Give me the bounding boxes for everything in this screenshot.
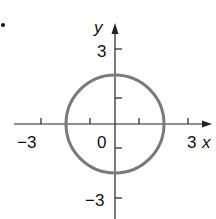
y-tick-label-neg3: −3 [85, 191, 104, 210]
x-tick-label-neg3: −3 [17, 133, 36, 152]
y-tick-label-3: 3 [97, 42, 106, 61]
y-axis [112, 23, 123, 219]
x-axis [14, 118, 212, 128]
x-tick-label-3: 3 [187, 133, 196, 152]
x-axis-arrow-icon [202, 121, 212, 128]
y-axis-arrow-icon [112, 23, 119, 34]
circle-graph: y 3 −3 0 3 x −3 [0, 0, 216, 219]
x-tick-label-0: 0 [97, 133, 106, 152]
x-axis-label: x [201, 133, 211, 152]
y-axis-label: y [93, 18, 104, 37]
bullet-marker [1, 23, 5, 27]
